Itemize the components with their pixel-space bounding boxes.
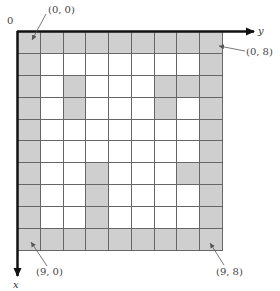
grid-cell-0-3 xyxy=(86,32,109,54)
grid-cell-2-2 xyxy=(64,76,87,98)
grid-cell-2-7 xyxy=(177,76,200,98)
grid-cell-8-1 xyxy=(41,207,64,229)
label-bottom-right: (9, 8) xyxy=(216,266,243,277)
grid-cell-7-0 xyxy=(18,185,41,207)
grid-cell-6-0 xyxy=(18,163,41,185)
grid-cell-0-4 xyxy=(109,32,132,54)
grid-cell-1-0 xyxy=(18,54,41,76)
grid-cell-8-8 xyxy=(200,207,223,229)
x-axis-label: x xyxy=(13,279,19,290)
grid-cell-9-1 xyxy=(41,229,64,251)
grid-cell-7-5 xyxy=(132,185,155,207)
grid-cell-8-4 xyxy=(109,207,132,229)
y-axis-label: y xyxy=(258,25,264,36)
grid-cell-1-7 xyxy=(177,54,200,76)
grid-cell-2-4 xyxy=(109,76,132,98)
grid-cell-5-8 xyxy=(200,141,223,163)
grid-cell-5-7 xyxy=(177,141,200,163)
grid-cell-2-3 xyxy=(86,76,109,98)
grid-cell-7-8 xyxy=(200,185,223,207)
grid-cell-8-6 xyxy=(155,207,178,229)
grid-cell-6-7 xyxy=(177,163,200,185)
grid-cell-2-1 xyxy=(41,76,64,98)
grid-cell-8-3 xyxy=(86,207,109,229)
grid-cell-7-2 xyxy=(64,185,87,207)
grid-cell-2-8 xyxy=(200,76,223,98)
grid-cell-2-6 xyxy=(155,76,178,98)
grid-cell-4-4 xyxy=(109,120,132,142)
grid-cell-3-6 xyxy=(155,98,178,120)
grid-cell-6-4 xyxy=(109,163,132,185)
grid-cell-7-4 xyxy=(109,185,132,207)
grid-cell-6-6 xyxy=(155,163,178,185)
grid-cell-5-0 xyxy=(18,141,41,163)
grid-cell-3-0 xyxy=(18,98,41,120)
grid-cell-3-3 xyxy=(86,98,109,120)
grid-cell-7-6 xyxy=(155,185,178,207)
grid-cell-0-8 xyxy=(200,32,223,54)
grid-cell-7-3 xyxy=(86,185,109,207)
grid-cell-1-4 xyxy=(109,54,132,76)
grid-cell-3-7 xyxy=(177,98,200,120)
grid-cell-6-2 xyxy=(64,163,87,185)
label-bottom-left: (9, 0) xyxy=(36,266,63,277)
grid-cell-1-1 xyxy=(41,54,64,76)
grid-cell-9-2 xyxy=(64,229,87,251)
grid-cell-3-1 xyxy=(41,98,64,120)
grid-cell-0-7 xyxy=(177,32,200,54)
grid-cell-8-2 xyxy=(64,207,87,229)
grid-cell-4-5 xyxy=(132,120,155,142)
grid-cell-6-8 xyxy=(200,163,223,185)
grid-cell-7-1 xyxy=(41,185,64,207)
grid-cell-8-0 xyxy=(18,207,41,229)
grid-cell-0-5 xyxy=(132,32,155,54)
grid-cell-2-5 xyxy=(132,76,155,98)
grid-cell-0-2 xyxy=(64,32,87,54)
grid-cell-8-5 xyxy=(132,207,155,229)
grid-cell-9-4 xyxy=(109,229,132,251)
grid-cell-1-8 xyxy=(200,54,223,76)
grid-cell-1-5 xyxy=(132,54,155,76)
grid-cell-0-6 xyxy=(155,32,178,54)
grid-cell-9-0 xyxy=(18,229,41,251)
grid-cell-9-5 xyxy=(132,229,155,251)
grid-cell-9-3 xyxy=(86,229,109,251)
grid-cell-4-6 xyxy=(155,120,178,142)
grid-cell-6-3 xyxy=(86,163,109,185)
grid-cell-5-2 xyxy=(64,141,87,163)
grid-cell-3-4 xyxy=(109,98,132,120)
grid-cell-1-3 xyxy=(86,54,109,76)
grid-cell-4-3 xyxy=(86,120,109,142)
grid-cell-5-6 xyxy=(155,141,178,163)
grid-cell-2-0 xyxy=(18,76,41,98)
grid-cell-9-6 xyxy=(155,229,178,251)
grid-cell-9-8 xyxy=(200,229,223,251)
grid-cell-3-8 xyxy=(200,98,223,120)
grid-cell-6-5 xyxy=(132,163,155,185)
grid-cell-4-2 xyxy=(64,120,87,142)
grid-cell-3-5 xyxy=(132,98,155,120)
label-top-left: (0, 0) xyxy=(48,4,75,15)
grid-cell-1-6 xyxy=(155,54,178,76)
grid-cell-3-2 xyxy=(64,98,87,120)
grid-cell-5-3 xyxy=(86,141,109,163)
grid-cell-4-1 xyxy=(41,120,64,142)
grid-cell-7-7 xyxy=(177,185,200,207)
grid-cell-8-7 xyxy=(177,207,200,229)
grid-cell-4-0 xyxy=(18,120,41,142)
grid-cell-4-8 xyxy=(200,120,223,142)
grid-cell-5-4 xyxy=(109,141,132,163)
grid-cell-5-1 xyxy=(41,141,64,163)
grid-cell-1-2 xyxy=(64,54,87,76)
grid-cell-5-5 xyxy=(132,141,155,163)
grid-cell-9-7 xyxy=(177,229,200,251)
origin-label: 0 xyxy=(7,15,13,26)
grid-cell-6-1 xyxy=(41,163,64,185)
label-top-right: (0, 8) xyxy=(246,46,273,57)
grid-cell-0-1 xyxy=(41,32,64,54)
grid-diagram xyxy=(17,31,223,251)
grid-cell-0-0 xyxy=(18,32,41,54)
grid-cell-4-7 xyxy=(177,120,200,142)
